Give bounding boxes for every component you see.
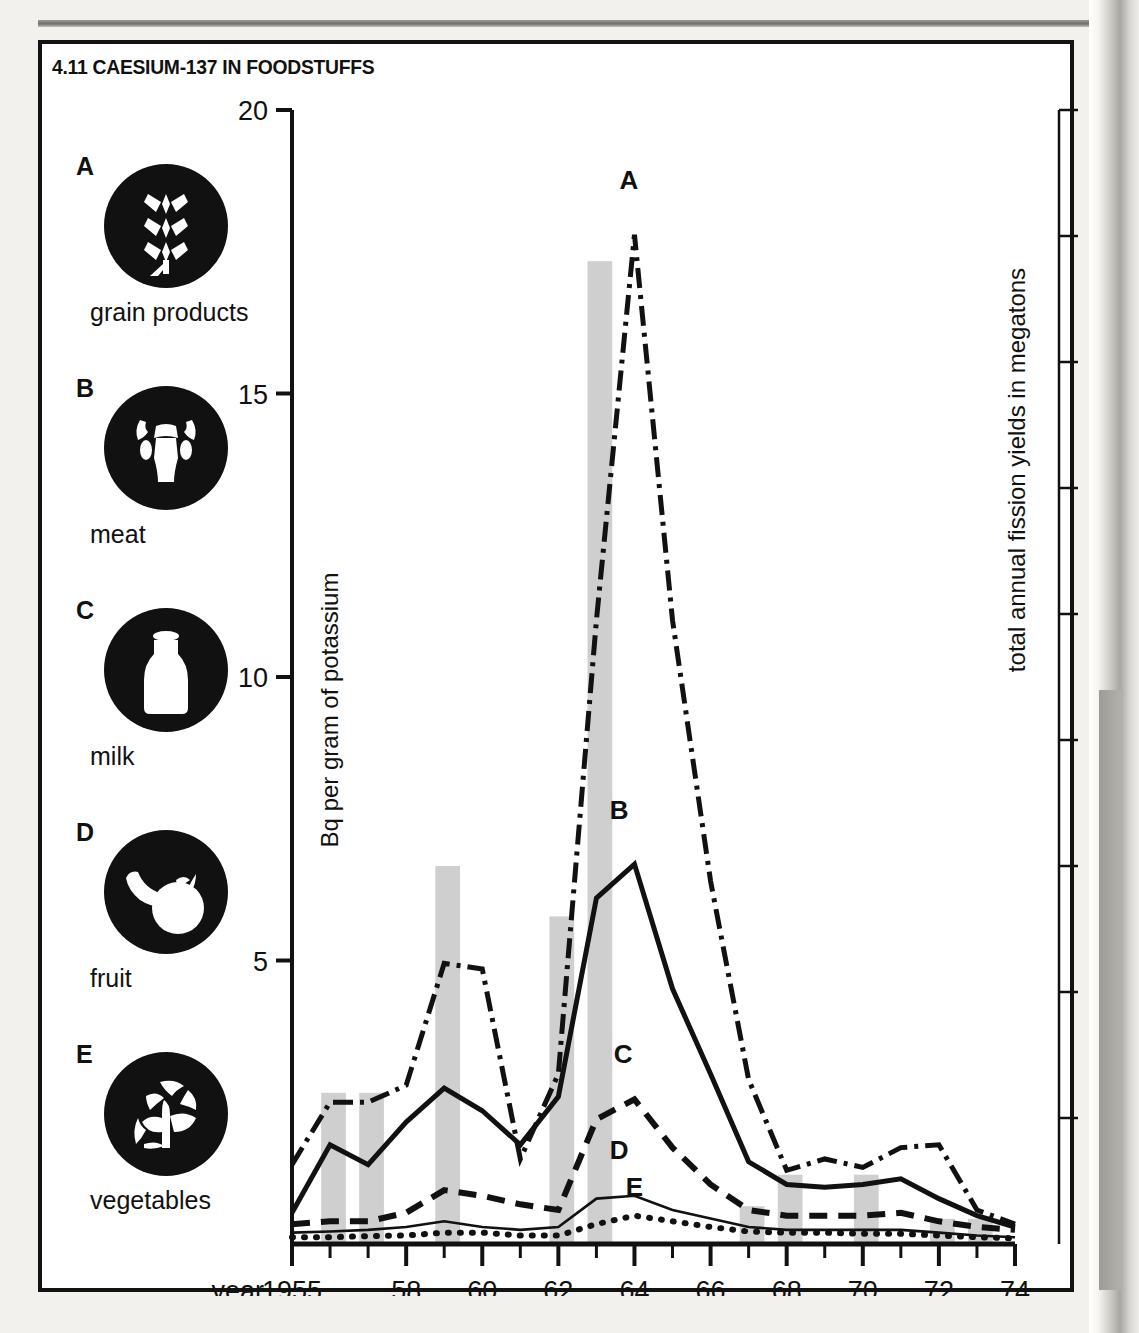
y-axis-title: Bq per gram of potassium bbox=[316, 573, 343, 848]
curve-label-d: D bbox=[610, 1135, 629, 1165]
y-tick-label: 5 bbox=[253, 947, 268, 977]
y-tick-label: 10 bbox=[238, 663, 268, 693]
bars-group bbox=[321, 261, 993, 1244]
chart-canvas: 5101520102030405060708090195558606264666… bbox=[42, 44, 1078, 1296]
series-group bbox=[292, 235, 1015, 1239]
x-tick-label: 58 bbox=[391, 1276, 421, 1296]
annotations-group: ABCDE bbox=[610, 165, 643, 1201]
x-tick-label: 68 bbox=[772, 1276, 802, 1296]
x-tick-label: 1955 bbox=[262, 1276, 322, 1296]
x-tick-label: 60 bbox=[467, 1276, 497, 1296]
x-tick-label: 64 bbox=[619, 1276, 649, 1296]
x-tick-label: 70 bbox=[848, 1276, 878, 1296]
x-tick-label: 62 bbox=[543, 1276, 573, 1296]
series-line-a bbox=[292, 235, 1015, 1224]
page-top-rule bbox=[38, 20, 1139, 27]
curve-label-b: B bbox=[610, 795, 629, 825]
x-axis-label: year bbox=[211, 1276, 264, 1296]
bar bbox=[968, 1219, 993, 1244]
curve-label-e: E bbox=[626, 1172, 643, 1202]
y-tick-label: 20 bbox=[238, 96, 268, 126]
x-tick-label: 72 bbox=[924, 1276, 954, 1296]
bar bbox=[588, 261, 613, 1244]
curve-label-c: C bbox=[614, 1039, 633, 1069]
x-tick-label: 66 bbox=[696, 1276, 726, 1296]
bar bbox=[435, 866, 460, 1244]
figure-frame: 4.11 CAESIUM-137 IN FOODSTUFFS A bbox=[38, 40, 1074, 1292]
y-tick-label: 15 bbox=[238, 380, 268, 410]
series-line-c bbox=[292, 1099, 1015, 1229]
curve-label-a: A bbox=[619, 165, 638, 195]
x-tick-label: 74 bbox=[1000, 1276, 1030, 1296]
series-line-b bbox=[292, 864, 1015, 1227]
page-edge-dark-band bbox=[1099, 690, 1121, 1290]
y2-axis-title: total annual fission yields in megatons bbox=[1003, 268, 1030, 672]
